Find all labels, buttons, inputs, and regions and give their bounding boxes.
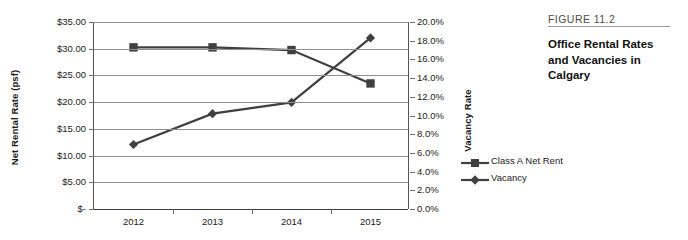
- series-line: [134, 47, 371, 83]
- data-point-diamond: [208, 109, 217, 118]
- right-axis-tick: [410, 116, 415, 117]
- left-axis-label: $20.00: [57, 96, 86, 107]
- x-axis-label: 2015: [360, 216, 381, 227]
- gridline: [94, 182, 408, 183]
- data-point-square: [129, 43, 137, 51]
- right-axis-tick: [410, 209, 415, 210]
- left-axis-tick: [89, 129, 94, 130]
- left-axis-label: $-: [78, 203, 86, 214]
- gridline: [94, 102, 408, 103]
- figure-caption: FIGURE 11.2 Office Rental Rates and Vaca…: [500, 0, 688, 240]
- right-axis-tick: [410, 41, 415, 42]
- right-axis-label: 14.0%: [417, 72, 444, 83]
- right-axis-tick: [410, 78, 415, 79]
- right-axis-label: 6.0%: [417, 147, 439, 158]
- left-axis-label: $25.00: [57, 69, 86, 80]
- gridline: [94, 129, 408, 130]
- data-point-square: [366, 79, 374, 87]
- left-axis-label: $10.00: [57, 150, 86, 161]
- figure-number: FIGURE 11.2: [548, 13, 676, 25]
- right-axis-label: 8.0%: [417, 128, 439, 139]
- data-point-square: [208, 43, 216, 51]
- chart-area: Net Rental Rate (psf) Vacancy Rate $35.0…: [0, 0, 500, 240]
- left-axis-tick: [89, 156, 94, 157]
- right-axis-label: 10.0%: [417, 110, 444, 121]
- right-axis-label: 4.0%: [417, 166, 439, 177]
- x-axis-label: 2014: [281, 216, 302, 227]
- right-axis-label: 16.0%: [417, 53, 444, 64]
- left-axis-tick: [89, 22, 94, 23]
- left-axis-label: $30.00: [57, 43, 86, 54]
- gridline: [94, 156, 408, 157]
- right-axis-label: 12.0%: [417, 91, 444, 102]
- right-axis-label: 2.0%: [417, 184, 439, 195]
- gridline: [94, 49, 408, 50]
- right-axis-tick: [410, 59, 415, 60]
- left-axis-label: $35.00: [57, 16, 86, 27]
- figure-container: Net Rental Rate (psf) Vacancy Rate $35.0…: [0, 0, 688, 240]
- caption-divider: [548, 26, 670, 27]
- legend-marker-square-icon: [460, 155, 490, 167]
- series-layer: [94, 22, 410, 209]
- left-axis-tick: [89, 75, 94, 76]
- left-axis-label: $5.00: [62, 176, 86, 187]
- right-axis-label: 18.0%: [417, 35, 444, 46]
- legend-marker-diamond-icon: [460, 172, 490, 184]
- plot-frame: $35.00$30.00$25.00$20.00$15.00$10.00$5.0…: [93, 22, 409, 209]
- x-axis-label: 2013: [202, 216, 223, 227]
- gridline: [94, 75, 408, 76]
- left-axis-label: $15.00: [57, 123, 86, 134]
- x-axis-tick: [173, 209, 174, 214]
- right-axis-tick: [410, 153, 415, 154]
- figure-title: Office Rental Rates and Vacancies in Cal…: [548, 37, 666, 84]
- right-axis-tick: [410, 172, 415, 173]
- x-axis-tick: [331, 209, 332, 214]
- data-point-square: [287, 46, 295, 54]
- right-axis-tick: [410, 97, 415, 98]
- right-axis-label: 20.0%: [417, 16, 444, 27]
- x-axis-tick: [252, 209, 253, 214]
- x-axis-label: 2012: [123, 216, 144, 227]
- right-axis-tick: [410, 134, 415, 135]
- gridline: [94, 22, 408, 23]
- right-axis-tick: [410, 190, 415, 191]
- left-axis-tick: [89, 102, 94, 103]
- left-axis-tick: [89, 49, 94, 50]
- gridline: [94, 209, 408, 210]
- data-point-diamond: [129, 140, 138, 149]
- left-axis-tick: [89, 182, 94, 183]
- right-axis-tick: [410, 22, 415, 23]
- right-axis-label: 0.0%: [417, 203, 439, 214]
- left-axis-tick: [89, 209, 94, 210]
- left-axis-title: Net Rental Rate (psf): [9, 63, 20, 173]
